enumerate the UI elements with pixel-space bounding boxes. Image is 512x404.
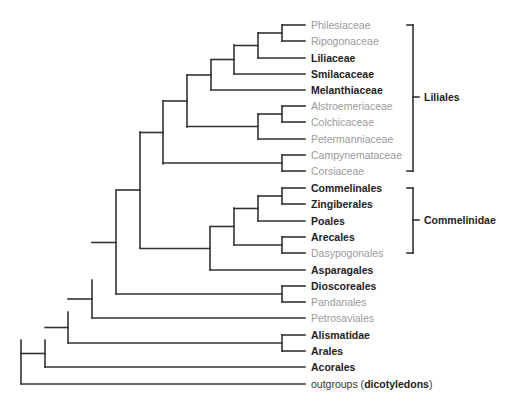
leaf-arecales: Arecales (311, 231, 355, 243)
phylogenetic-tree (0, 0, 512, 404)
leaf-smilacaceae: Smilacaceae (311, 68, 374, 80)
leaf-colchicaceae: Colchicaceae (311, 116, 374, 128)
leaf-arales: Arales (311, 345, 343, 357)
leaf-acorales: Acorales (311, 361, 355, 373)
leaf-philesiaceae: Philesiaceae (311, 19, 371, 31)
leaf-petermanniaceae: Petermanniaceae (311, 133, 393, 145)
outgroup-dicotyledons: dicotyledons (364, 378, 429, 390)
leaf-commelinales: Commelinales (311, 182, 382, 194)
leaf-alismatidae: Alismatidae (311, 329, 370, 341)
leaf-corsiaceae: Corsiaceae (311, 165, 364, 177)
leaf-dioscoreales: Dioscoreales (311, 280, 376, 292)
commelinidae-group-label: Commelinidae (424, 214, 496, 226)
leaf-petrosaviales: Petrosaviales (311, 312, 374, 324)
leaf-asparagales: Asparagales (311, 264, 373, 276)
leaf-pandanales: Pandanales (311, 296, 366, 308)
leaf-alstroemeriaceae: Alstroemeriaceae (311, 100, 393, 112)
leaf-poales: Poales (311, 215, 345, 227)
leaf-liliaceae: Liliaceae (311, 52, 355, 64)
leaf-campynemataceae: Campynemataceae (311, 149, 402, 161)
leaf-dasypogonales: Dasypogonales (311, 247, 383, 259)
leaf-zingiberales: Zingiberales (311, 198, 373, 210)
leaf-melanthiaceae: Melanthiaceae (311, 84, 383, 96)
liliales-group-label: Liliales (424, 91, 460, 103)
leaf-outgroups: outgroups (dicotyledons) (311, 378, 432, 390)
leaf-ripogonaceae: Ripogonaceae (311, 35, 379, 47)
